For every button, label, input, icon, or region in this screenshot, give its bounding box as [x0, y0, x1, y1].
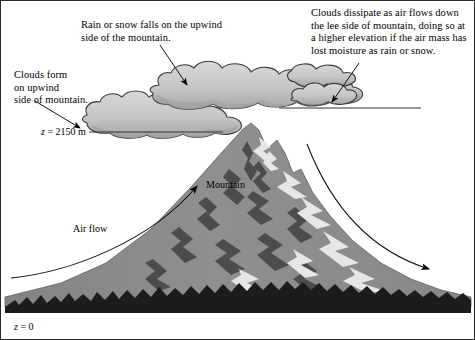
annotation-clouds-dissipate: Clouds dissipate as air flows down the l… — [311, 7, 467, 57]
label-air-flow: Air flow — [73, 223, 107, 234]
elevation-equals-ground: = — [18, 321, 29, 332]
orographic-lifting-figure: Rain or snow falls on the upwind side of… — [0, 0, 475, 340]
annotation-rain-snow: Rain or snow falls on the upwind side of… — [81, 19, 222, 44]
elevation-label-ground: z = 0 — [14, 321, 34, 332]
label-mountain: Mountain — [206, 179, 245, 190]
elevation-label-2150: z = 2150 m — [41, 126, 86, 137]
elevation-equals-upper: = — [45, 126, 56, 137]
elevation-value-ground: 0 — [29, 321, 34, 332]
annotation-clouds-form: Clouds form on upwind side of mountain. — [14, 69, 88, 107]
mountain-shape — [5, 123, 471, 307]
elevation-value-upper: 2150 m — [56, 126, 86, 137]
